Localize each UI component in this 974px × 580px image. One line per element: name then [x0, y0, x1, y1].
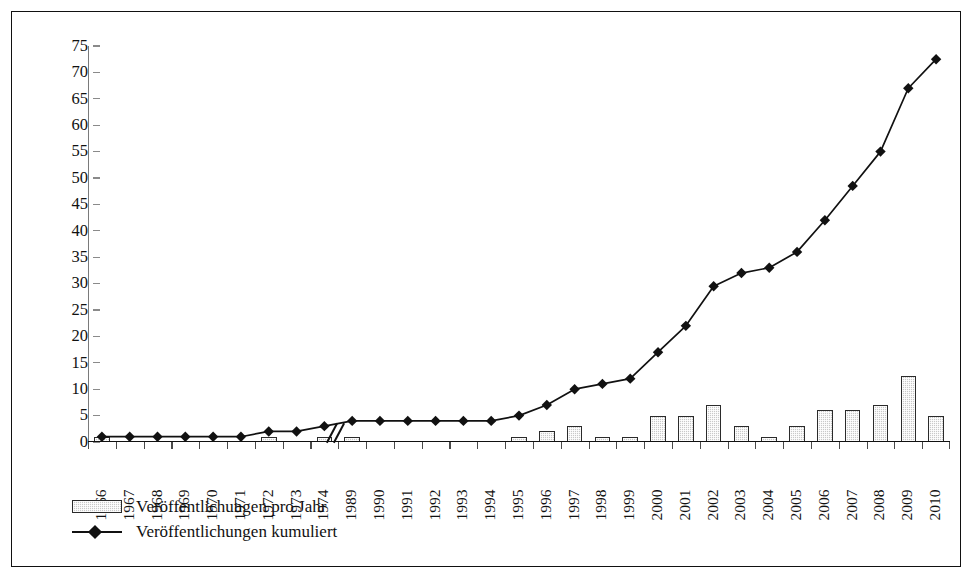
line-marker-diamond	[291, 426, 301, 436]
x-axis-tick-label: 1990	[370, 450, 386, 520]
x-axis-tick-label: 2010	[927, 450, 943, 520]
x-axis-tick	[171, 442, 172, 449]
x-axis-tick	[616, 442, 617, 449]
x-axis-tick-label: 1991	[398, 450, 414, 520]
x-axis-tick-label: 2008	[871, 450, 887, 520]
x-axis-tick	[949, 442, 950, 449]
line-marker-diamond	[736, 268, 746, 278]
x-axis-tick-label: 2004	[760, 450, 776, 520]
line-marker-diamond	[375, 416, 385, 426]
cumulative-line-series	[88, 36, 950, 442]
x-axis-tick	[894, 442, 895, 449]
legend-item-publications-per-year: Veröffentlichungen pro Jahr	[72, 494, 337, 519]
x-axis-tick-label: 2003	[732, 450, 748, 520]
x-axis-tick	[477, 442, 478, 449]
x-axis-tick-label: 2009	[899, 450, 915, 520]
legend-item-publications-cumulative: Veröffentlichungen kumuliert	[72, 519, 337, 544]
x-axis-tick	[700, 442, 701, 449]
line-marker-diamond	[514, 410, 524, 420]
x-axis-tick	[116, 442, 117, 449]
line-markers	[97, 54, 942, 442]
x-axis-tick	[589, 442, 590, 449]
x-axis-tick	[533, 442, 534, 449]
x-axis-tick	[728, 442, 729, 449]
x-axis-tick	[755, 442, 756, 449]
line-path	[102, 59, 936, 437]
line-marker-diamond	[708, 281, 718, 291]
x-axis-tick	[310, 442, 311, 449]
axis-break-icon	[325, 422, 351, 448]
line-marker-diamond	[597, 379, 607, 389]
x-axis-tick	[88, 442, 89, 449]
plot-area: 051015202530354045505560657075 196619671…	[88, 36, 950, 442]
x-axis-tick-label: 1994	[482, 450, 498, 520]
x-axis-tick	[449, 442, 450, 449]
x-axis-tick	[644, 442, 645, 449]
line-marker-diamond	[430, 416, 440, 426]
x-axis-tick-label: 1995	[510, 450, 526, 520]
x-axis-tick	[394, 442, 395, 449]
x-axis-tick-label: 2007	[843, 450, 859, 520]
x-axis-tick	[922, 442, 923, 449]
line-marker-diamond	[569, 384, 579, 394]
x-axis-tick	[366, 442, 367, 449]
x-axis-tick-label: 2000	[649, 450, 665, 520]
line-marker-diamond	[264, 426, 274, 436]
legend-bar-swatch-icon	[72, 500, 122, 513]
x-axis-tick	[867, 442, 868, 449]
chart-legend: Veröffentlichungen pro Jahr Veröffentlic…	[72, 494, 337, 544]
x-axis-tick	[505, 442, 506, 449]
x-axis-tick-label: 1998	[593, 450, 609, 520]
x-axis-tick	[227, 442, 228, 449]
x-axis-tick	[811, 442, 812, 449]
legend-line-swatch-icon	[72, 525, 122, 538]
legend-label-publications-cumulative: Veröffentlichungen kumuliert	[136, 523, 337, 540]
line-marker-diamond	[403, 416, 413, 426]
line-marker-diamond	[542, 400, 552, 410]
line-marker-diamond	[458, 416, 468, 426]
x-axis-tick-label: 1992	[426, 450, 442, 520]
x-axis-tick-label: 1999	[621, 450, 637, 520]
x-axis-tick-label: 1997	[565, 450, 581, 520]
x-axis-tick	[283, 442, 284, 449]
chart-frame: 051015202530354045505560657075 196619671…	[11, 11, 961, 567]
line-marker-diamond	[486, 416, 496, 426]
x-axis-tick	[422, 442, 423, 449]
x-axis-tick	[783, 442, 784, 449]
x-axis-tick-label: 2005	[788, 450, 804, 520]
x-axis-tick	[255, 442, 256, 449]
x-axis-tick-label: 2001	[676, 450, 692, 520]
x-axis-tick-label: 1996	[537, 450, 553, 520]
x-axis-tick-label: 2006	[815, 450, 831, 520]
x-axis-tick	[672, 442, 673, 449]
x-axis-tick	[144, 442, 145, 449]
x-axis-tick-label: 2002	[704, 450, 720, 520]
legend-label-publications-per-year: Veröffentlichungen pro Jahr	[136, 498, 326, 515]
x-axis-tick-label: 1993	[454, 450, 470, 520]
x-axis-tick	[561, 442, 562, 449]
x-axis-tick-label: 1989	[343, 450, 359, 520]
x-axis-tick	[199, 442, 200, 449]
x-axis-tick	[839, 442, 840, 449]
line-marker-diamond	[764, 263, 774, 273]
x-axis-line	[88, 441, 950, 442]
